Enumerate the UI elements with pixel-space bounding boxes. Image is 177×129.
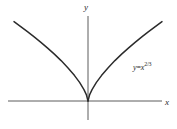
curve-equation-label: y=x2/3 xyxy=(133,61,151,72)
x-axis-label: x xyxy=(165,98,169,107)
y-axis-label: y xyxy=(84,3,88,12)
curve-left-branch xyxy=(14,22,88,101)
function-graph-figure: y x y=x2/3 xyxy=(0,0,177,129)
equation-exponent: 2/3 xyxy=(144,61,151,67)
